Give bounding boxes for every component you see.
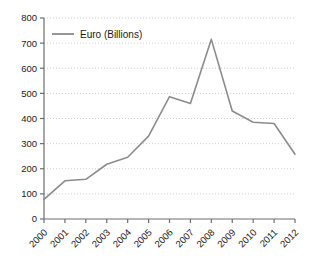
legend-label: Euro (Billions) <box>80 29 142 40</box>
x-tick-label: 2012 <box>278 227 301 250</box>
y-tick-label: 0 <box>32 213 37 224</box>
y-tick-label: 800 <box>21 12 37 23</box>
x-tick-label: 2002 <box>69 227 92 250</box>
x-tick-label: 2011 <box>257 227 279 249</box>
y-tick-label: 300 <box>21 138 37 149</box>
y-tick-label: 100 <box>21 188 37 199</box>
x-axis-ticks: 2000200120022003200420052006200720082009… <box>27 219 301 249</box>
series-line <box>44 39 295 199</box>
data-series-group <box>44 39 295 199</box>
x-tick-label: 2008 <box>194 227 217 250</box>
y-axis-ticks: 0100200300400500600700800 <box>21 12 44 224</box>
chart-svg: 0100200300400500600700800 20002001200220… <box>0 0 317 261</box>
x-tick-label: 2007 <box>173 227 196 250</box>
y-tick-label: 700 <box>21 38 37 49</box>
y-tick-label: 400 <box>21 113 37 124</box>
gridlines-group <box>44 18 295 194</box>
x-tick-label: 2004 <box>110 227 133 250</box>
x-tick-label: 2009 <box>215 227 238 250</box>
chart-legend: Euro (Billions) <box>52 29 142 40</box>
y-tick-label: 200 <box>21 163 37 174</box>
x-tick-label: 2010 <box>236 227 259 250</box>
x-tick-label: 2003 <box>89 227 112 250</box>
x-tick-label: 2006 <box>152 227 175 250</box>
x-tick-label: 2001 <box>48 227 71 250</box>
x-tick-label: 2000 <box>27 227 50 250</box>
y-tick-label: 500 <box>21 88 37 99</box>
y-tick-label: 600 <box>21 63 37 74</box>
x-tick-label: 2005 <box>131 227 154 250</box>
chart-container: 0100200300400500600700800 20002001200220… <box>0 0 317 261</box>
line-chart: 0100200300400500600700800 20002001200220… <box>0 0 317 261</box>
